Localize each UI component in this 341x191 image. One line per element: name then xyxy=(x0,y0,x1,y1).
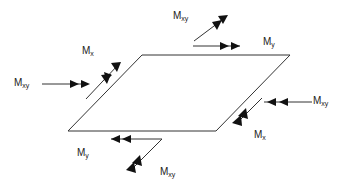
mx-right-arrow xyxy=(232,98,262,126)
my-bottom-arrow xyxy=(111,135,162,143)
mxy-bottom-arrow xyxy=(126,139,162,173)
mxy-top-arrow xyxy=(194,15,228,41)
label-mxy-top: Mxy xyxy=(173,11,188,22)
plate-parallelogram xyxy=(68,55,290,131)
plate-diagram xyxy=(0,0,341,191)
label-mx-top-left: Mx xyxy=(82,46,94,57)
label-mxy-right: Mxy xyxy=(313,96,328,107)
label-my-bottom-left: My xyxy=(77,148,89,159)
mx-left-arrow xyxy=(86,62,121,99)
mxy-right-arrow xyxy=(264,98,312,106)
label-mxy-bottom: Mxy xyxy=(160,167,175,178)
mxy-left-arrow xyxy=(42,80,90,88)
label-my-top-right: My xyxy=(263,37,275,48)
my-top-arrow xyxy=(193,42,240,50)
label-mxy-left: Mxy xyxy=(14,78,29,89)
label-mx-bottom-right: Mx xyxy=(254,130,266,141)
